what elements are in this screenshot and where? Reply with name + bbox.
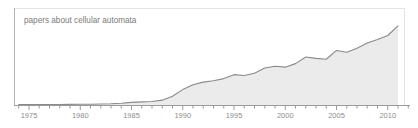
area-chart: 1975 1980 1985 1990 1995 2000 2005 2010 …: [0, 0, 418, 128]
area-fill-region: [19, 26, 398, 105]
x-tick-label-1990: 1990: [174, 111, 191, 120]
x-tick-label-1995: 1995: [226, 111, 243, 120]
x-tick-label-1980: 1980: [72, 111, 89, 120]
x-axis-ticks: [19, 106, 409, 110]
chart-container: 1975 1980 1985 1990 1995 2000 2005 2010 …: [0, 0, 418, 128]
x-tick-label-2000: 2000: [277, 111, 294, 120]
x-tick-label-1985: 1985: [123, 111, 140, 120]
x-tick-label-2005: 2005: [328, 111, 345, 120]
chart-title: papers about cellular automata: [24, 16, 137, 25]
x-tick-label-1975: 1975: [21, 111, 38, 120]
x-tick-label-2010: 2010: [379, 111, 396, 120]
